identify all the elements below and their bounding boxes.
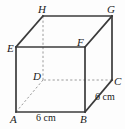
edge-H-E — [16, 16, 43, 47]
vertex-label-e: E — [7, 43, 14, 54]
dimension-bc: 6 cm — [95, 92, 115, 102]
dimension-ab: 6 cm — [36, 113, 56, 123]
vertex-label-c: C — [114, 76, 121, 87]
vertex-label-g: G — [107, 4, 115, 15]
cube-diagram: ABCDEFGH 6 cm6 cm — [0, 0, 125, 129]
vertex-label-a: A — [10, 114, 17, 125]
cube-svg — [0, 0, 125, 129]
vertex-label-d: D — [33, 71, 41, 82]
vertex-label-h: H — [38, 4, 46, 15]
vertex-label-f: F — [77, 37, 84, 48]
edge-D-A — [16, 80, 43, 112]
vertex-label-b: B — [80, 114, 87, 125]
edge-F-G — [85, 16, 112, 47]
